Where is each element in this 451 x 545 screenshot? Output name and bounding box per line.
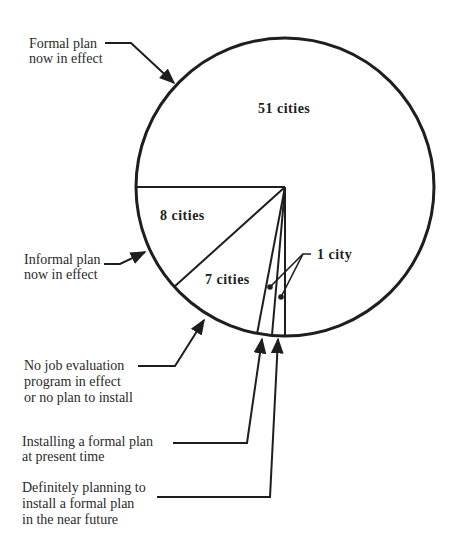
arrow-icon bbox=[157, 339, 278, 497]
callout-formal-line2: now in effect bbox=[29, 51, 103, 66]
arrow-icon bbox=[173, 339, 262, 443]
slice-label-51: 51 cities bbox=[258, 101, 310, 116]
callout-formal-plan: Formal plan now in effect bbox=[29, 36, 174, 83]
arrow-icon bbox=[105, 43, 174, 83]
callout-informal-line1: Informal plan bbox=[24, 252, 101, 267]
callout-installing-line1: Installing a formal plan bbox=[22, 434, 153, 449]
slice-dividers bbox=[136, 187, 285, 336]
one-city-leaders bbox=[267, 254, 311, 300]
callout-installing-line2: at present time bbox=[22, 449, 104, 464]
callout-no-job-evaluation: No job evaluation program in effect or n… bbox=[24, 320, 204, 405]
arrow-icon bbox=[104, 252, 145, 264]
pie-chart: 51 cities 8 cities 7 cities 1 city Forma… bbox=[0, 0, 451, 545]
callout-planning-line1: Definitely planning to bbox=[22, 480, 146, 495]
callout-planning-line2: install a formal plan bbox=[22, 496, 134, 511]
callout-nojob-line2: program in effect bbox=[24, 374, 121, 389]
arrow-icon bbox=[138, 320, 204, 366]
callout-planning-line3: in the near future bbox=[22, 512, 118, 527]
slice-label-7: 7 cities bbox=[205, 272, 250, 287]
callout-nojob-line1: No job evaluation bbox=[24, 358, 124, 373]
callout-formal-line1: Formal plan bbox=[29, 36, 97, 51]
slice-label-1: 1 city bbox=[317, 247, 352, 262]
slice-label-8: 8 cities bbox=[160, 208, 205, 223]
callout-nojob-line3: or no plan to install bbox=[24, 390, 133, 405]
callout-informal-line2: now in effect bbox=[24, 267, 98, 282]
callout-informal-plan: Informal plan now in effect bbox=[24, 252, 145, 282]
